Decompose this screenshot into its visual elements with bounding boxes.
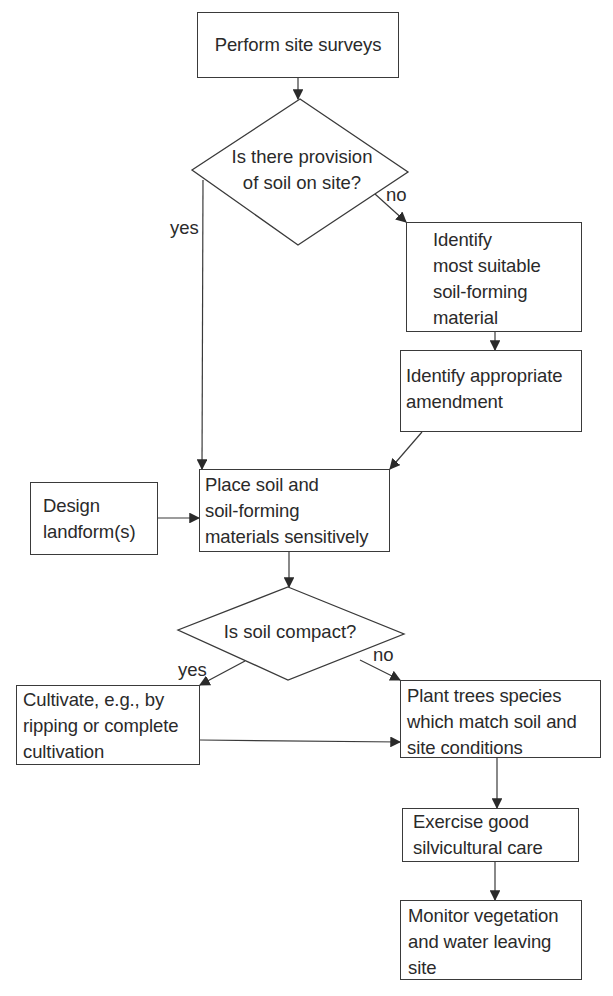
node-monitor-vegetation-water: Monitor vegetation and water leaving sit… xyxy=(400,900,582,980)
node-plant-tree-species: Plant trees species which match soil and… xyxy=(400,680,601,758)
node-text: landform(s) xyxy=(43,519,157,545)
node-text: and water leaving xyxy=(408,929,581,955)
node-place-soil-materials: Place soil and soil-forming materials se… xyxy=(199,469,390,552)
node-text: Design xyxy=(43,493,157,519)
node-text: site xyxy=(408,955,581,981)
node-text: materials sensitively xyxy=(205,524,389,550)
arrow-provision-yes xyxy=(202,180,203,469)
flowchart-canvas: Perform site surveys Is there provision … xyxy=(0,0,613,996)
node-identify-soil-forming-material: Identify most suitable soil-forming mate… xyxy=(406,222,582,332)
decision-text: of soil on site? xyxy=(212,170,392,196)
node-text: Place soil and xyxy=(205,472,389,498)
node-text: which match soil and xyxy=(407,709,600,735)
node-text: Monitor vegetation xyxy=(408,903,581,929)
node-text: Identify xyxy=(433,227,581,253)
node-text: Exercise good xyxy=(413,809,578,835)
node-text: soil-forming xyxy=(433,279,581,305)
edge-label-compact-no: no xyxy=(373,645,394,665)
decision-text: Is soil compact? xyxy=(224,621,357,642)
edge-label-compact-yes: yes xyxy=(178,660,207,680)
node-cultivate: Cultivate, e.g., by ripping or complete … xyxy=(16,685,200,765)
node-text: amendment xyxy=(406,389,581,415)
node-text: Perform site surveys xyxy=(215,32,382,58)
node-text: ripping or complete xyxy=(23,713,199,739)
node-text: cultivation xyxy=(23,739,199,765)
node-text: Identify appropriate xyxy=(406,363,581,389)
decision-label-soil-provision: Is there provision of soil on site? xyxy=(212,144,392,196)
node-text: soil-forming xyxy=(205,498,389,524)
edge-label-provision-no: no xyxy=(386,185,407,205)
arrow-amendment-to-place xyxy=(390,432,422,469)
node-text: Cultivate, e.g., by xyxy=(23,687,199,713)
node-text: site conditions xyxy=(407,735,600,761)
edge-label-provision-yes: yes xyxy=(170,218,199,238)
arrow-cultivate-to-plant xyxy=(200,740,400,742)
node-text: material xyxy=(433,305,581,331)
decision-label-soil-compact: Is soil compact? xyxy=(200,619,380,645)
node-text: Plant trees species xyxy=(407,683,600,709)
node-text: silvicultural care xyxy=(413,835,578,861)
node-silvicultural-care: Exercise good silvicultural care xyxy=(402,808,579,862)
node-identify-appropriate-amendment: Identify appropriate amendment xyxy=(400,350,582,432)
node-perform-site-surveys: Perform site surveys xyxy=(197,12,399,78)
decision-text: Is there provision xyxy=(212,144,392,170)
node-text: most suitable xyxy=(433,253,581,279)
node-design-landforms: Design landform(s) xyxy=(30,482,158,555)
